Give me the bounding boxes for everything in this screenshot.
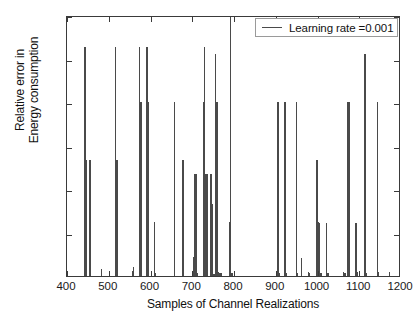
bar [197,273,198,276]
x-axis-tick [234,271,235,276]
bar [284,102,285,276]
x-tick-label: 1200 [377,280,420,292]
bar [297,273,298,276]
x-tick-label: 1100 [335,280,381,292]
bar [319,223,320,276]
bars-layer [67,17,399,276]
bar [195,174,196,276]
y-axis-tick [394,235,399,236]
bar [320,273,321,276]
bar [212,204,213,276]
x-axis-tick [151,17,152,22]
x-tick-label: 700 [168,280,214,292]
bar [356,272,357,276]
x-axis-tick [359,271,360,276]
bar [89,160,90,276]
y-axis-tick [67,191,72,192]
bar [86,160,87,276]
y-axis-tick [67,148,72,149]
x-axis-tick [192,271,193,276]
legend-line-swatch [262,27,282,29]
bar [309,273,310,276]
bar [148,102,149,276]
legend-box: Learning rate =0.001 [255,18,398,37]
x-axis-label: Samples of Channel Realizations [66,297,400,311]
x-axis-tick [151,271,152,276]
y-axis-label-line1: Relative error in [13,0,27,190]
bar [101,269,102,276]
bar [133,267,134,276]
bar [277,102,278,276]
y-axis-label: Relative error in Energy consumption [13,0,41,190]
bar [349,102,350,276]
x-axis-tick [234,17,235,22]
bar [344,273,345,276]
bar [207,174,208,276]
bar [296,102,297,276]
bar [389,272,390,276]
y-axis-tick [394,148,399,149]
plot-area [66,16,400,277]
y-axis-tick [67,235,72,236]
x-axis-tick [67,271,68,276]
bar [220,273,221,276]
bar [377,102,378,276]
bar [327,273,328,276]
y-axis-label-line2: Energy consumption [27,0,41,190]
bar [285,273,286,276]
x-axis-tick [318,271,319,276]
x-axis-tick [109,17,110,22]
page-margin [0,316,420,330]
bar [301,258,302,276]
x-tick-label: 500 [85,280,131,292]
bar [230,16,231,276]
bar [174,102,175,276]
y-axis-tick [67,104,72,105]
bar [366,273,367,276]
bar [364,54,365,276]
x-axis-tick [192,17,193,22]
bar [326,223,327,276]
bar [216,102,217,276]
x-tick-label: 1000 [294,280,340,292]
x-tick-label: 400 [43,280,89,292]
bar [378,272,379,276]
bar [154,273,155,276]
x-tick-label: 900 [252,280,298,292]
bar [116,160,117,276]
y-axis-tick [67,17,72,18]
x-tick-label: 800 [210,280,256,292]
y-axis-tick [394,191,399,192]
x-tick-label: 600 [127,280,173,292]
bar [231,273,232,276]
figure-container: 400500600700800900100011001200 00.511.52… [0,0,420,330]
bar [182,160,183,276]
legend-entry-label: Learning rate =0.001 [289,22,393,34]
y-axis-tick [394,61,399,62]
bar [154,222,155,276]
bar [278,273,279,276]
bar [140,102,141,276]
bar [355,223,356,276]
y-axis-tick [394,104,399,105]
y-axis-tick [67,61,72,62]
x-axis-tick [109,271,110,276]
x-axis-tick [276,271,277,276]
